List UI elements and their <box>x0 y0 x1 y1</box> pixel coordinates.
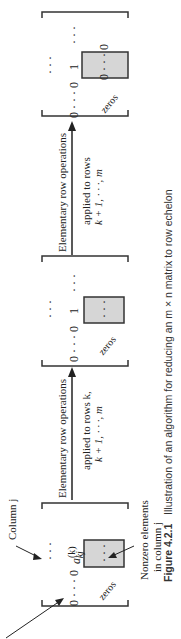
matrix-1-pivot: a(k)kj <box>66 551 85 564</box>
matrix-2-trailing-dots: · · · <box>68 274 80 292</box>
matrix-3-trailing-dots: · · · <box>68 26 80 44</box>
matrix-2-leading-dots: · · · <box>44 300 56 318</box>
arrow-2-top-label: Elementary row operations <box>56 133 68 252</box>
figure-caption-text: Illustration of an algorithm for reducin… <box>162 190 174 515</box>
arrow-2-bottom-line2: k + 1, · · ·, m <box>92 169 104 225</box>
figure-number: Figure 4.2.1 <box>162 524 174 582</box>
matrix-2-pivot: 1 <box>68 308 80 314</box>
matrix-3-pivot: 1 <box>68 64 80 70</box>
figure-caption: Figure 4.2.1 Illustration of an algorith… <box>162 190 174 583</box>
matrix-3-zero-row: 0 · · · 0 <box>68 82 80 118</box>
matrix-1-leading-dots: · · · <box>44 542 56 560</box>
nonzero-label-line1: Nonzero elements <box>138 500 150 580</box>
matrix-1-zero-row: 0 · · · 0 <box>68 570 80 606</box>
arrow-2-bottom-line1: applied to rows <box>80 157 92 225</box>
arrow-1-bottom-line2: k + 1, · · ·, m <box>92 406 104 462</box>
matrix-2-box-content: · · · <box>98 300 110 318</box>
matrix-1-box-content: · · · <box>98 544 110 562</box>
arrow-1-bottom-line1: applied to rows k, <box>80 391 92 470</box>
matrix-3-box-content: 0 · · · 0 <box>98 44 110 80</box>
figure: .r { position:absolute; transform-origin… <box>0 0 181 639</box>
arrow-1-top-label: Elementary row operations <box>56 379 68 498</box>
column-j-label: Column j <box>6 499 18 540</box>
matrix-3-leading-dots: · · · <box>44 56 56 74</box>
matrix-2-zero-row: 0 · · · 0 <box>68 326 80 362</box>
